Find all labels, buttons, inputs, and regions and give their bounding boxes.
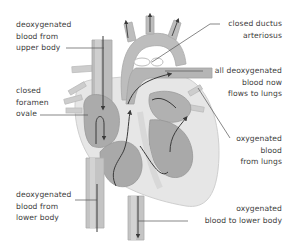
label-line: oxygenated: [236, 133, 282, 145]
label-line: deoxygenated: [16, 19, 72, 31]
label-all-deoxygenated-to-lungs: all deoxygenated blood now flows to lung…: [215, 65, 282, 100]
label-closed-ductus-arteriosus: closed ductus arteriosus: [228, 18, 282, 41]
label-line: flows to lungs: [215, 88, 282, 100]
right-ventricle: [100, 141, 142, 187]
label-deoxygenated-from-lower-body: deoxygenated blood from lower body: [16, 189, 72, 224]
label-line: arteriosus: [228, 30, 282, 42]
label-line: closed: [16, 85, 49, 97]
label-line: closed ductus: [228, 18, 282, 30]
label-line: ovale: [16, 108, 49, 120]
label-line: foramen: [16, 97, 49, 109]
closed-ductus-arteriosus: [134, 58, 150, 66]
label-line: blood from: [16, 31, 72, 43]
label-line: oxygenated: [205, 203, 282, 215]
label-oxygenated-from-lungs: oxygenated blood from lungs: [236, 133, 282, 168]
label-line: all deoxygenated: [215, 65, 282, 77]
fetal-heart-diagram: deoxygenated blood from upper body close…: [0, 0, 293, 241]
label-line: from lungs: [236, 156, 282, 168]
label-line: blood: [236, 145, 282, 157]
label-line: blood now: [215, 77, 282, 89]
label-deoxygenated-from-upper-body: deoxygenated blood from upper body: [16, 19, 72, 54]
label-oxygenated-to-lower-body: oxygenated blood to lower body: [205, 203, 282, 226]
label-line: upper body: [16, 42, 72, 54]
label-line: blood to lower body: [205, 215, 282, 227]
label-line: blood from: [16, 201, 72, 213]
label-line: deoxygenated: [16, 189, 72, 201]
label-line: lower body: [16, 212, 72, 224]
label-closed-foramen-ovale: closed foramen ovale: [16, 85, 49, 120]
